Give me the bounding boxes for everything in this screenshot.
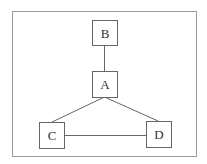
node-b: B bbox=[93, 21, 118, 46]
node-c: C bbox=[40, 123, 65, 149]
edge-a-c bbox=[52, 97, 105, 122]
node-a: A bbox=[93, 72, 118, 98]
node-d-label: D bbox=[154, 127, 163, 142]
node-d: D bbox=[147, 122, 172, 148]
node-c-label: C bbox=[48, 128, 57, 143]
node-a-label: A bbox=[100, 77, 110, 92]
node-b-label: B bbox=[101, 26, 110, 41]
edge-a-d bbox=[105, 97, 159, 121]
diagram-canvas: B A C D bbox=[0, 0, 207, 164]
